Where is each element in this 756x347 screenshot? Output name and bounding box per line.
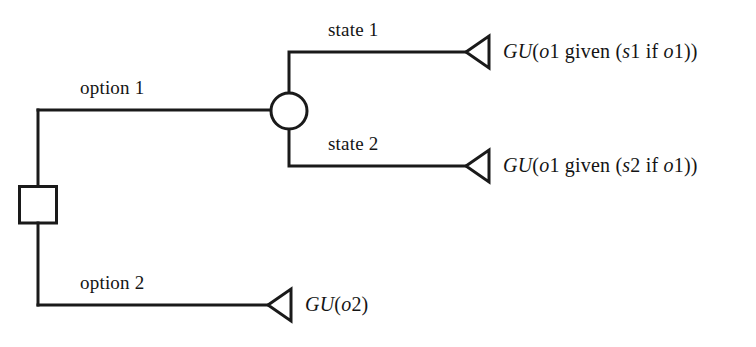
scan-artifact-right xyxy=(430,330,435,345)
terminal-triangle-2 xyxy=(466,150,489,182)
edge-state-1 xyxy=(289,52,466,93)
decision-tree-diagram: option 1 option 2 state 1 state 2 GU(o1 … xyxy=(0,0,756,347)
branch-label-option-2: option 2 xyxy=(80,273,144,292)
payoff-label-3: GU(o2) xyxy=(305,294,368,314)
chance-node-circle xyxy=(271,93,307,129)
branch-label-option-1: option 1 xyxy=(80,78,144,97)
terminal-triangle-1 xyxy=(466,36,489,68)
branch-label-state-2: state 2 xyxy=(328,134,378,153)
payoff-label-2: GU(o1 given (s2 if o1)) xyxy=(503,155,698,175)
terminal-triangle-3 xyxy=(268,289,291,321)
scan-artifact-left xyxy=(26,316,31,331)
payoff-label-1: GU(o1 given (s1 if o1)) xyxy=(503,41,698,61)
branch-label-state-1: state 1 xyxy=(328,20,378,39)
decision-node-square xyxy=(20,187,57,224)
